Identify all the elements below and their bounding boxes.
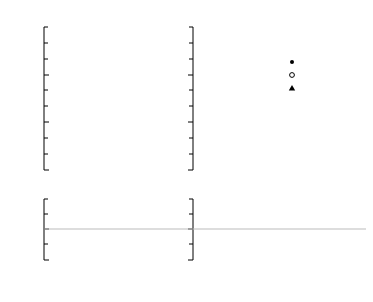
legend-steady-state-icon bbox=[289, 85, 295, 91]
legend-early-icon bbox=[290, 73, 295, 78]
chart-canvas bbox=[0, 0, 373, 302]
top-right-axis bbox=[188, 27, 193, 170]
top-left-axis bbox=[44, 27, 49, 170]
legend bbox=[289, 60, 295, 91]
figure bbox=[0, 0, 373, 302]
legend-control-icon bbox=[290, 60, 294, 64]
